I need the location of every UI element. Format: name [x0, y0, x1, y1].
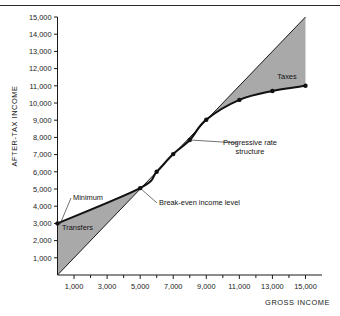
y-tick-label: 11,000	[29, 82, 51, 91]
x-tick-label: 15,000	[294, 282, 317, 291]
annotation-progressive-rate-line1: Progressive rate	[223, 138, 277, 147]
data-point-marker	[154, 170, 158, 174]
x-axis-title: GROSS INCOME	[265, 298, 330, 307]
y-tick-label: 4,000	[33, 202, 52, 211]
y-tick-label: 8,000	[33, 133, 52, 142]
y-tick-label: 10,000	[29, 99, 52, 108]
data-point-marker	[270, 89, 274, 93]
y-tick-label: 1,000	[33, 254, 52, 263]
x-tick-label: 7,000	[164, 282, 183, 291]
y-tick-label: 3,000	[33, 219, 52, 228]
annotation-transfers: Transfers	[62, 223, 93, 232]
y-tick-label: 2,000	[33, 236, 52, 245]
y-tick-label: 7,000	[33, 150, 52, 159]
x-tick-label: 9,000	[197, 282, 216, 291]
x-tick-label: 11,000	[228, 282, 250, 291]
annotation-break-even-income-level: Break-even income level	[159, 198, 240, 207]
y-axis-title: AFTER-TAX INCOME	[10, 86, 19, 167]
data-point-marker	[55, 221, 59, 225]
x-tick-label: 5,000	[131, 282, 150, 291]
y-tick-label: 15,000	[29, 13, 52, 22]
negative-income-tax-chart: 1,0002,0003,0004,0005,0006,0007,0008,000…	[0, 0, 340, 316]
y-tick-label: 6,000	[33, 168, 52, 177]
x-axis-ticks	[74, 275, 305, 279]
x-tick-label: 13,000	[261, 282, 284, 291]
x-tick-label: 1,000	[65, 282, 84, 291]
figure-container: 1,0002,0003,0004,0005,0006,0007,0008,000…	[0, 0, 340, 316]
annotation-minimum: Minimum	[73, 193, 103, 202]
annotation-taxes: Taxes	[277, 72, 297, 81]
y-tick-label: 13,000	[29, 47, 52, 56]
x-axis-tick-labels: 1,0003,0005,0007,0009,00011,00013,00015,…	[65, 282, 317, 291]
y-tick-label: 5,000	[33, 185, 52, 194]
data-point-marker	[204, 117, 208, 121]
data-point-marker	[237, 98, 241, 102]
break-even-leader-line	[140, 188, 157, 203]
y-axis-tick-labels: 1,0002,0003,0004,0005,0006,0007,0008,000…	[29, 13, 52, 263]
y-tick-label: 12,000	[29, 64, 52, 73]
y-tick-label: 9,000	[33, 116, 52, 125]
data-point-marker	[171, 152, 175, 156]
data-point-marker	[303, 84, 307, 88]
y-tick-label: 14,000	[29, 30, 52, 39]
x-tick-label: 3,000	[98, 282, 117, 291]
annotation-progressive-rate-line2: structure	[236, 147, 265, 156]
